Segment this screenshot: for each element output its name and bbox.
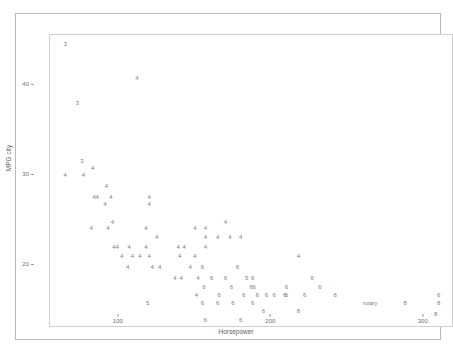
data-point: 4 — [179, 275, 182, 281]
data-point: 4 — [144, 225, 147, 231]
data-point: 4 — [138, 253, 141, 259]
data-point: 4 — [216, 234, 219, 240]
data-point: 6 — [239, 317, 242, 323]
data-point: 4 — [189, 264, 192, 270]
y-axis-tick-mark — [31, 84, 34, 85]
data-point: 4 — [173, 275, 176, 281]
x-axis-tick-mark — [270, 314, 271, 317]
data-point: 6 — [285, 292, 288, 298]
scatter-plot-figure: 3433444444444444444444444444444444444444… — [0, 0, 453, 350]
data-point: 4 — [82, 172, 85, 178]
data-point: 4 — [96, 194, 99, 200]
data-point: 6 — [216, 300, 219, 306]
data-point: 4 — [204, 244, 207, 250]
data-point: 4 — [239, 234, 242, 240]
x-axis-tick-label: 300 — [418, 318, 428, 324]
data-point: 4 — [111, 219, 114, 225]
data-point: 4 — [193, 253, 196, 259]
data-point: 4 — [193, 225, 196, 231]
data-point: 4 — [158, 264, 161, 270]
data-point: 4 — [178, 253, 181, 259]
data-point: 4 — [135, 75, 138, 81]
y-axis-tick-mark — [31, 174, 34, 175]
data-point: 4 — [103, 201, 106, 207]
data-point: 4 — [64, 172, 67, 178]
data-point: 6 — [333, 292, 336, 298]
data-point: 6 — [272, 292, 275, 298]
data-point: 5 — [146, 300, 149, 306]
y-axis-tick-label: 30 — [18, 171, 29, 177]
data-point: 4 — [196, 275, 199, 281]
data-point: 8 — [437, 300, 440, 306]
data-point: rotary — [363, 300, 377, 306]
plot-data-area: 3433444444444444444444444444444444444444… — [50, 35, 452, 326]
data-point: 6 — [236, 264, 239, 270]
data-point: 6 — [251, 275, 254, 281]
data-point: 4 — [147, 201, 150, 207]
data-point: 4 — [155, 234, 158, 240]
data-point: 4 — [89, 225, 92, 231]
data-point: 4 — [224, 219, 227, 225]
x-axis-tick-mark — [117, 314, 118, 317]
data-point: 4 — [131, 253, 134, 259]
data-point: 4 — [128, 244, 131, 250]
data-point: 4 — [297, 253, 300, 259]
data-point: 6 — [224, 275, 227, 281]
data-point: 4 — [147, 253, 150, 259]
data-point: 4 — [150, 264, 153, 270]
data-point: 6 — [210, 275, 213, 281]
data-point: 6 — [262, 308, 265, 314]
data-point: 6 — [204, 317, 207, 323]
data-point: 6 — [253, 284, 256, 290]
y-axis-tick-label: 40 — [18, 81, 29, 87]
data-point: 4 — [195, 292, 198, 298]
data-point: 4 — [106, 225, 109, 231]
data-point: 4 — [204, 234, 207, 240]
data-point: 4 — [109, 194, 112, 200]
x-axis-title: Horsepower — [218, 328, 253, 335]
data-point: 6 — [437, 292, 440, 298]
data-point: 6 — [231, 300, 234, 306]
x-axis-tick-label: 200 — [265, 318, 275, 324]
data-point: 3 — [64, 41, 67, 47]
data-point: 6 — [251, 300, 254, 306]
data-point: 6 — [230, 284, 233, 290]
data-point: 6 — [303, 292, 306, 298]
data-point: 3 — [80, 158, 83, 164]
data-point: 4 — [120, 253, 123, 259]
data-point: 6 — [242, 292, 245, 298]
data-point: 4 — [147, 194, 150, 200]
data-point: 4 — [228, 234, 231, 240]
y-axis-tick-mark — [31, 264, 34, 265]
data-point: 6 — [201, 300, 204, 306]
data-point: 4 — [91, 165, 94, 171]
figure-outer-border: 3433444444444444444444444444444444444444… — [15, 13, 441, 340]
data-point: 6 — [256, 292, 259, 298]
data-point: 4 — [115, 244, 118, 250]
data-point: 4 — [204, 225, 207, 231]
data-point: 6 — [318, 284, 321, 290]
data-point: 8 — [297, 308, 300, 314]
data-point: 6 — [285, 284, 288, 290]
data-point: 8 — [404, 300, 407, 306]
data-point: 5 — [245, 275, 248, 281]
plot-frame: 3433444444444444444444444444444444444444… — [49, 34, 453, 327]
data-point: 4 — [182, 244, 185, 250]
data-point: 4 — [144, 244, 147, 250]
data-point: 6 — [201, 264, 204, 270]
data-point: 4 — [105, 183, 108, 189]
data-point: 6 — [311, 275, 314, 281]
data-point: 6 — [265, 292, 268, 298]
data-point: 8 — [434, 311, 437, 317]
data-point: 4 — [176, 244, 179, 250]
data-point: 4 — [126, 264, 129, 270]
data-point: 6 — [202, 284, 205, 290]
data-point: 3 — [76, 100, 79, 106]
data-point: 6 — [218, 292, 221, 298]
x-axis-tick-label: 100 — [113, 318, 123, 324]
y-axis-tick-label: 20 — [18, 261, 29, 267]
y-axis-title: MPG city — [5, 144, 12, 170]
x-axis-tick-mark — [422, 314, 423, 317]
